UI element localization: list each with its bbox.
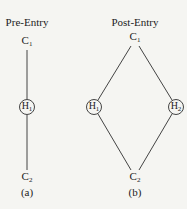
- node-b-c2: C2: [130, 170, 141, 186]
- edge-b-c1-h2: [139, 46, 172, 100]
- node-b-h1: H1: [89, 100, 100, 115]
- node-a-c1: C1: [22, 34, 33, 50]
- node-b-c1: C1: [130, 30, 141, 46]
- node-b-h2: H2: [171, 100, 182, 115]
- edge-b-h1-c2: [98, 114, 131, 170]
- edge-b-h2-c2: [139, 114, 172, 170]
- panel-b-title: Post-Entry: [111, 16, 158, 28]
- edge-b-c1-h1: [98, 46, 131, 100]
- panel-a-caption: (a): [21, 186, 33, 198]
- node-a-h1: H1: [22, 100, 33, 115]
- panel-b-caption: (b): [129, 186, 142, 198]
- panel-a-title: Pre-Entry: [6, 16, 49, 28]
- node-a-c2: C2: [22, 170, 33, 186]
